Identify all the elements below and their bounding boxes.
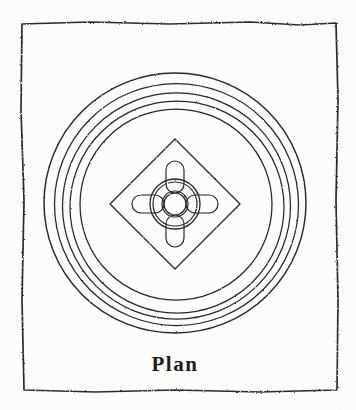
figure-caption: Plan <box>151 352 198 376</box>
plan-drawing-canvas: Plan <box>0 0 356 410</box>
paper-grain-texture <box>0 0 356 410</box>
plan-figure-page: Plan <box>0 0 356 410</box>
